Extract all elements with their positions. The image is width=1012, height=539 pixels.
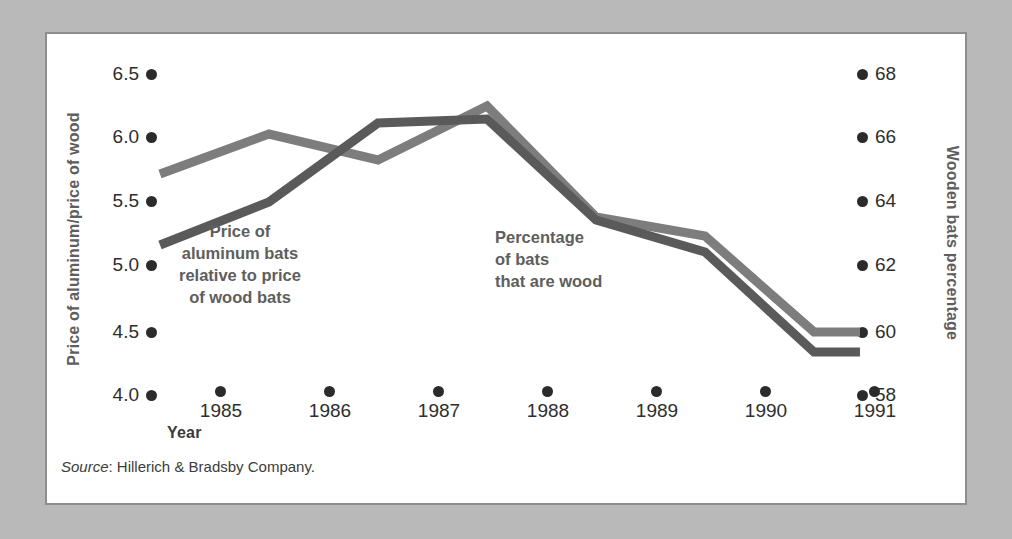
x-axis-label: 1991	[835, 400, 915, 422]
x-axis-label: 1987	[399, 400, 479, 422]
x-tick-dot-icon	[651, 386, 662, 397]
annotation-line: aluminum bats	[135, 242, 345, 264]
aluminum-bats-annotation: Price of aluminum bats relative to price…	[135, 220, 345, 308]
x-axis-label: 1989	[617, 400, 697, 422]
x-tick-dot-icon	[324, 386, 335, 397]
annotation-line: that are wood	[495, 270, 685, 292]
x-tick-dot-icon	[869, 386, 880, 397]
source-label: Source	[61, 458, 109, 475]
annotation-line: of bats	[495, 248, 685, 270]
wood-bats-annotation: Percentage of bats that are wood	[495, 226, 685, 292]
x-axis-label: 1986	[290, 400, 370, 422]
x-tick-dot-icon	[433, 386, 444, 397]
chart-panel: Price of aluminum/price of wood Wooden b…	[45, 32, 967, 505]
annotation-line: relative to price	[135, 264, 345, 286]
x-axis-label: 1988	[508, 400, 588, 422]
source-text: : Hillerich & Bradsby Company.	[109, 458, 315, 475]
x-tick-dot-icon	[760, 386, 771, 397]
annotation-line: Percentage	[495, 226, 685, 248]
source-note: Source: Hillerich & Bradsby Company.	[61, 458, 315, 475]
figure-frame: Price of aluminum/price of wood Wooden b…	[0, 0, 1012, 539]
x-tick-dot-icon	[542, 386, 553, 397]
x-axis-label: 1990	[726, 400, 806, 422]
annotation-line: Price of	[135, 220, 345, 242]
x-axis-title: Year	[167, 424, 202, 442]
x-axis-label: 1985	[181, 400, 261, 422]
annotation-line: of wood bats	[135, 286, 345, 308]
x-tick-dot-icon	[215, 386, 226, 397]
